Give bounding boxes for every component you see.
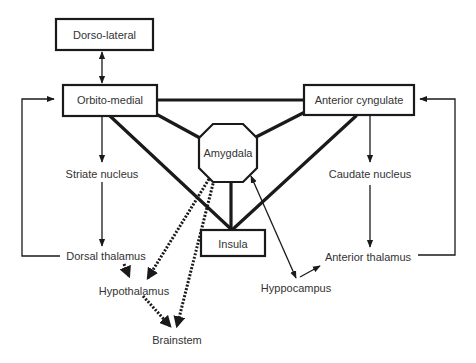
node-label: Dorso-lateral bbox=[73, 29, 136, 41]
node-dorsal-thalamus: Dorsal thalamus bbox=[66, 250, 146, 262]
node-hyppocampus: Hyppocampus bbox=[261, 282, 332, 294]
node-orbito-medial: Orbito-medial bbox=[63, 85, 157, 116]
node-label: Insula bbox=[218, 238, 248, 250]
edge-amygdala-hypothalamus bbox=[148, 179, 209, 278]
node-label: Orbito-medial bbox=[77, 94, 143, 106]
edge-hyppocampus-anterior-thalamus bbox=[300, 266, 320, 277]
node-hypothalamus: Hypothalamus bbox=[99, 285, 170, 297]
node-label: Amygdala bbox=[204, 147, 254, 159]
node-label: Anterior cyngulate bbox=[315, 94, 404, 106]
node-anterior-thalamus: Anterior thalamus bbox=[325, 251, 412, 263]
edge-orbito-to-amygdala bbox=[156, 114, 200, 138]
edge-dorsal-orbito-loop bbox=[22, 99, 60, 256]
edge-cyngulate-to-amygdala bbox=[256, 112, 305, 137]
node-brainstem: Brainstem bbox=[152, 334, 202, 346]
node-insula: Insula bbox=[201, 230, 265, 256]
node-anterior-cyngulate: Anterior cyngulate bbox=[304, 85, 414, 115]
node-striate-nucleus: Striate nucleus bbox=[66, 168, 139, 180]
edge-dorsal-hypothalamus bbox=[124, 264, 129, 276]
neural-circuit-diagram: Dorso-lateral Orbito-medial Anterior cyn… bbox=[0, 0, 476, 363]
node-dorso-lateral: Dorso-lateral bbox=[56, 19, 153, 50]
node-caudate-nucleus: Caudate nucleus bbox=[329, 168, 412, 180]
edge-hypothalamus-brainstem bbox=[143, 296, 170, 326]
node-amygdala: Amygdala bbox=[199, 124, 257, 182]
edge-anterior-thalamus-cyngulate-loop bbox=[418, 99, 455, 255]
